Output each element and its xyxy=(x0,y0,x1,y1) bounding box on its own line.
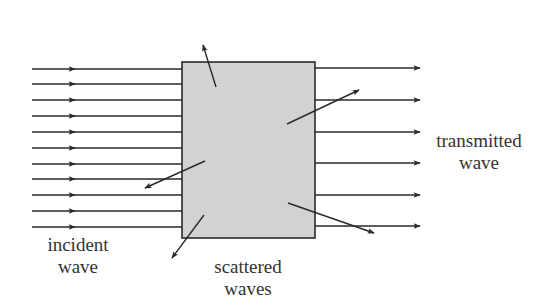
label-line: scattered xyxy=(203,256,293,278)
label-line: transmitted xyxy=(424,130,534,152)
scattered-waves-label: scattered waves xyxy=(203,256,293,300)
label-line: wave xyxy=(424,152,534,174)
label-line: waves xyxy=(203,278,293,300)
label-line: wave xyxy=(38,256,118,278)
transmitted-rays xyxy=(315,68,420,226)
scatterer-box xyxy=(182,62,315,238)
incident-rays xyxy=(32,69,182,227)
incident-wave-label: incident wave xyxy=(38,234,118,278)
transmitted-wave-label: transmitted wave xyxy=(424,130,534,174)
label-line: incident xyxy=(38,234,118,256)
